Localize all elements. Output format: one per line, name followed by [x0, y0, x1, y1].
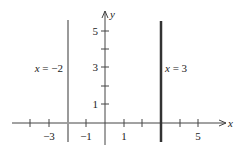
y-tick-label: 5 [93, 25, 99, 37]
x-tick-label: −1 [80, 130, 92, 142]
y-axis-label: y [109, 8, 115, 20]
y-tick-label: 3 [93, 61, 99, 73]
x-axis-label: x [227, 117, 233, 129]
x-tick-label: 1 [121, 130, 127, 142]
x-tick-label: −3 [43, 130, 55, 142]
x-tick-label: 5 [195, 130, 201, 142]
y-tick-label: 1 [93, 98, 99, 110]
line-x-3-label: x = 3 [164, 62, 188, 74]
graph: x y −3 −1 1 5 1 3 5 x = −2 x = 3 [0, 0, 245, 153]
line-x-neg2-label: x = −2 [34, 62, 63, 74]
